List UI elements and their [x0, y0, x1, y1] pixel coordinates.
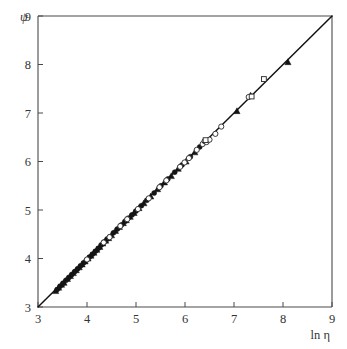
x-axis-label: ln η [311, 328, 330, 342]
data-point-circle [111, 230, 116, 235]
data-point-circle [164, 178, 169, 183]
x-tick-label-6: 6 [182, 312, 188, 326]
y-tick-label-7: 7 [25, 107, 31, 121]
scatter-plot-figure: 3456789 3456789 ψ ln η [0, 0, 347, 349]
plot-canvas: 3456789 3456789 ψ ln η [0, 0, 347, 349]
data-point-circle [182, 160, 187, 165]
x-tick-label-5: 5 [133, 312, 139, 326]
x-tick-label-8: 8 [280, 312, 286, 326]
data-point-circle [130, 212, 135, 217]
data-point-square [261, 77, 266, 82]
data-point-circle [152, 191, 157, 196]
x-tick-label-9: 9 [329, 312, 335, 326]
data-point-circle [186, 156, 191, 161]
data-point-circle [178, 164, 183, 169]
data-point-circle [84, 257, 89, 262]
y-tick-label-8: 8 [25, 58, 31, 72]
y-tick-label-5: 5 [25, 204, 31, 218]
x-tick-label-3: 3 [35, 312, 41, 326]
data-point-circle [118, 223, 123, 228]
data-point-square [203, 138, 208, 143]
x-tick-label-7: 7 [231, 312, 237, 326]
data-point-circle [219, 124, 224, 129]
data-point-circle [101, 240, 106, 245]
data-point-circle [107, 235, 112, 240]
data-point-circle [213, 131, 218, 136]
data-point-circle [172, 170, 177, 175]
y-tick-label-4: 4 [25, 252, 32, 266]
data-point-circle [135, 206, 140, 211]
y-tick-label-3: 3 [25, 301, 31, 315]
data-point-circle [146, 196, 151, 201]
data-point-circle [125, 217, 130, 222]
x-tick-label-4: 4 [84, 312, 91, 326]
y-tick-label-6: 6 [25, 155, 31, 169]
data-point-circle [157, 185, 162, 190]
data-point-circle [194, 147, 199, 152]
y-axis-label: ψ [20, 10, 28, 24]
data-point-square [249, 94, 254, 99]
